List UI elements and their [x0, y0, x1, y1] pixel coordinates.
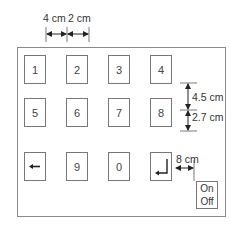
key-9[interactable]: 9	[66, 152, 88, 181]
key-width-label: 4 cm	[43, 13, 66, 24]
key-0[interactable]: 0	[108, 152, 130, 181]
key-3[interactable]: 3	[108, 55, 130, 84]
key-enter[interactable]	[150, 152, 172, 181]
key-2[interactable]: 2	[66, 55, 88, 84]
key-1[interactable]: 1	[24, 55, 46, 84]
key-7[interactable]: 7	[108, 98, 130, 127]
key-5[interactable]: 5	[24, 98, 46, 127]
key-backspace[interactable]	[24, 152, 46, 181]
enter-icon	[151, 153, 171, 180]
key-8[interactable]: 8	[150, 98, 172, 127]
left-arrow-icon	[25, 153, 45, 180]
key-gap-horizontal-label: 2 cm	[68, 13, 91, 24]
off-label: Off	[197, 195, 217, 208]
on-off-switch[interactable]: On Off	[196, 181, 218, 209]
key-4[interactable]: 4	[150, 55, 172, 84]
key-6[interactable]: 6	[66, 98, 88, 127]
on-label: On	[197, 182, 217, 195]
